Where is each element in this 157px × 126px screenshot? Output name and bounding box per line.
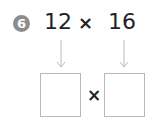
right-answer-box[interactable] xyxy=(104,73,145,117)
multiply-operator: × xyxy=(78,11,93,35)
arrow-down-icon xyxy=(56,40,66,70)
problem-number-badge: 6 xyxy=(13,15,30,32)
left-operand: 12 xyxy=(44,9,72,35)
left-answer-box[interactable] xyxy=(40,73,81,117)
answer-multiply-operator: × xyxy=(87,85,101,105)
right-operand: 16 xyxy=(108,9,136,35)
arrow-down-icon xyxy=(119,40,129,70)
